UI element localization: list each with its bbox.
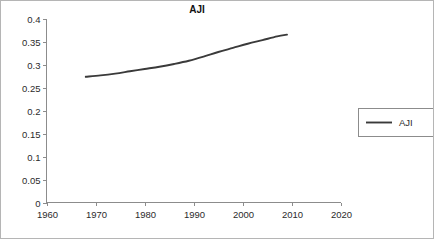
x-tick-label: 1970 [86, 209, 107, 220]
x-tick-label: 1960 [37, 209, 58, 220]
plot-area-background [46, 19, 341, 202]
chart-legend: AJI [359, 109, 434, 137]
x-tick-label: 2000 [233, 209, 254, 220]
x-tick-label: 2020 [331, 209, 352, 220]
y-tick-label: 0.1 [27, 152, 40, 163]
y-tick-label: 0.25 [22, 83, 41, 94]
y-tick-label: 0.15 [22, 129, 41, 140]
y-tick-label: 0.35 [22, 37, 41, 48]
y-tick-label: 0.2 [27, 106, 40, 117]
y-tick-label: 0.3 [27, 60, 40, 71]
chart-title: AJI [189, 4, 205, 15]
x-axis-ticks: 1960197019801990200020102020 [37, 203, 352, 220]
y-tick-label: 0 [35, 198, 40, 209]
chart-container: AJI 00.050.10.150.20.250.30.350.4 196019… [0, 0, 434, 239]
y-axis-ticks: 00.050.10.150.20.250.30.350.4 [22, 14, 47, 209]
legend-label-aji: AJI [399, 117, 413, 128]
line-chart: AJI 00.050.10.150.20.250.30.350.4 196019… [1, 1, 434, 239]
y-tick-label: 0.4 [27, 14, 40, 25]
x-tick-label: 2010 [282, 209, 303, 220]
x-tick-label: 1990 [184, 209, 205, 220]
x-tick-label: 1980 [135, 209, 156, 220]
y-tick-label: 0.05 [22, 175, 41, 186]
